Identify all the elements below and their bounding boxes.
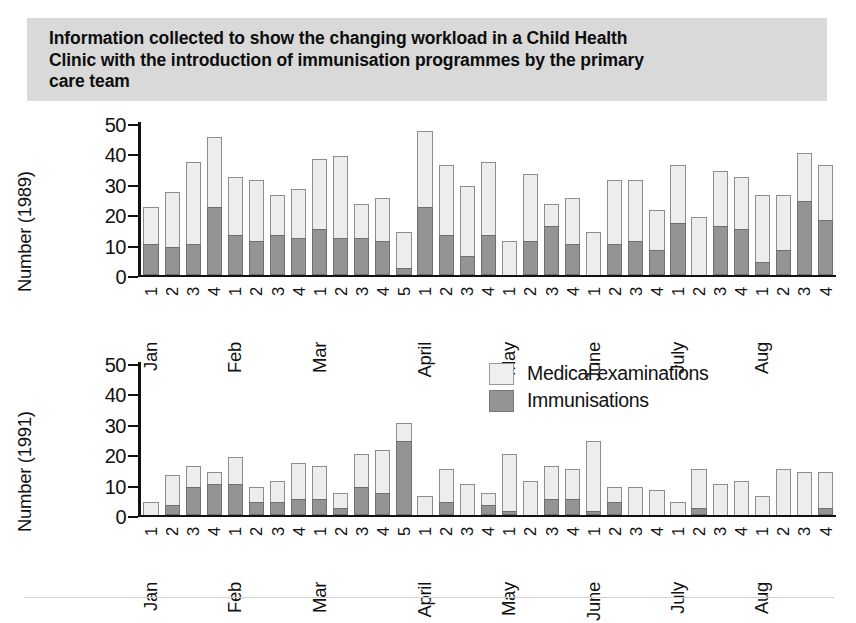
bar-july-4[interactable] — [734, 481, 749, 515]
bar-segment-medical-examinations — [670, 165, 685, 223]
y-tick-label: 40 — [105, 384, 126, 407]
bar-segment-medical-examinations — [776, 469, 791, 515]
bar-april-4[interactable] — [481, 162, 496, 275]
bar-slot — [267, 362, 288, 515]
bar-may-4[interactable] — [565, 469, 580, 515]
y-tick-label: 50 — [105, 113, 126, 136]
bar-segment-medical-examinations — [312, 159, 327, 229]
bar-june-2[interactable] — [607, 180, 622, 275]
bar-april-4[interactable] — [481, 493, 496, 514]
bar-segment-immunisations — [143, 244, 158, 275]
x-month-label-june: June — [583, 582, 605, 621]
bar-april-2[interactable] — [439, 165, 454, 275]
bar-may-4[interactable] — [565, 198, 580, 274]
bar-feb-2[interactable] — [249, 487, 264, 514]
bar-segment-medical-examinations — [523, 174, 538, 241]
bar-june-4[interactable] — [649, 490, 664, 514]
bar-jan-1[interactable] — [143, 207, 158, 274]
bar-slot — [372, 362, 393, 515]
x-month-label-may: May — [498, 582, 520, 616]
bar-feb-2[interactable] — [249, 180, 264, 275]
bar-may-1[interactable] — [502, 241, 517, 275]
bar-aug-2[interactable] — [776, 195, 791, 274]
bar-april-3[interactable] — [460, 186, 475, 274]
bar-mar-3[interactable] — [354, 204, 369, 274]
bar-july-2[interactable] — [691, 469, 706, 515]
bar-slot — [330, 122, 351, 275]
bar-mar-1[interactable] — [312, 159, 327, 275]
bar-feb-1[interactable] — [228, 177, 243, 275]
bar-april-3[interactable] — [460, 484, 475, 515]
x-week-label: 4 — [479, 287, 498, 296]
bar-jan-2[interactable] — [165, 475, 180, 515]
bar-segment-medical-examinations — [818, 165, 833, 220]
bar-april-2[interactable] — [439, 469, 454, 515]
bar-june-1[interactable] — [586, 441, 601, 514]
bar-feb-4[interactable] — [291, 463, 306, 515]
bar-aug-3[interactable] — [797, 472, 812, 515]
bar-june-1[interactable] — [586, 232, 601, 275]
bar-feb-4[interactable] — [291, 189, 306, 274]
bar-segment-medical-examinations — [396, 423, 411, 441]
bar-may-2[interactable] — [523, 174, 538, 275]
bar-mar-2[interactable] — [333, 156, 348, 275]
bar-june-2[interactable] — [607, 487, 622, 514]
x-week-label: 2 — [331, 527, 350, 536]
bar-july-1[interactable] — [670, 502, 685, 514]
bar-july-2[interactable] — [691, 217, 706, 275]
x-week-label: 4 — [373, 527, 392, 536]
bar-june-3[interactable] — [628, 487, 643, 514]
bar-mar-3[interactable] — [354, 454, 369, 515]
bar-aug-4[interactable] — [818, 165, 833, 275]
bar-june-4[interactable] — [649, 210, 664, 274]
x-week-label: 2 — [163, 527, 182, 536]
bar-jan-1[interactable] — [143, 502, 158, 514]
bar-segment-immunisations — [481, 505, 496, 514]
bar-slot — [604, 362, 625, 515]
bar-feb-3[interactable] — [270, 481, 285, 515]
bar-aug-3[interactable] — [797, 153, 812, 275]
bar-may-1[interactable] — [502, 454, 517, 515]
y-axis-title-1991: Number (1991) — [14, 362, 44, 532]
bar-feb-3[interactable] — [270, 195, 285, 274]
bar-jan-3[interactable] — [186, 162, 201, 275]
bar-mar-2[interactable] — [333, 493, 348, 514]
x-week-label: 4 — [732, 287, 751, 296]
x-week-label: 1 — [500, 527, 519, 536]
bar-segment-medical-examinations — [375, 198, 390, 241]
x-week-label: 3 — [795, 527, 814, 536]
bar-may-3[interactable] — [544, 466, 559, 515]
bar-jan-4[interactable] — [207, 137, 222, 274]
bar-may-3[interactable] — [544, 204, 559, 274]
bar-april-1[interactable] — [417, 131, 432, 274]
bar-april-1[interactable] — [417, 496, 432, 514]
x-week-label: 2 — [437, 287, 456, 296]
x-week-label: 2 — [605, 287, 624, 296]
bar-segment-medical-examinations — [228, 177, 243, 235]
bar-aug-4[interactable] — [818, 472, 833, 515]
bar-jan-2[interactable] — [165, 192, 180, 274]
bar-aug-1[interactable] — [755, 496, 770, 514]
bar-july-1[interactable] — [670, 165, 685, 275]
bar-mar-1[interactable] — [312, 466, 327, 515]
bar-may-2[interactable] — [523, 481, 538, 515]
bar-mar-4[interactable] — [375, 450, 390, 514]
bar-feb-1[interactable] — [228, 457, 243, 515]
bar-jan-4[interactable] — [207, 472, 222, 515]
bar-mar-4[interactable] — [375, 198, 390, 274]
bar-july-4[interactable] — [734, 177, 749, 275]
bar-mar-5[interactable] — [396, 232, 411, 275]
bar-june-3[interactable] — [628, 180, 643, 275]
bar-mar-5[interactable] — [396, 423, 411, 514]
y-tick-label: 20 — [105, 205, 126, 228]
x-week-label: 1 — [753, 287, 772, 296]
bar-aug-2[interactable] — [776, 469, 791, 515]
bar-segment-immunisations — [312, 229, 327, 275]
bar-jan-3[interactable] — [186, 466, 201, 515]
bar-slot — [710, 122, 731, 275]
bar-july-3[interactable] — [713, 171, 728, 275]
bar-july-3[interactable] — [713, 484, 728, 515]
bar-segment-immunisations — [818, 220, 833, 275]
bar-aug-1[interactable] — [755, 195, 770, 274]
bar-segment-medical-examinations — [481, 493, 496, 505]
